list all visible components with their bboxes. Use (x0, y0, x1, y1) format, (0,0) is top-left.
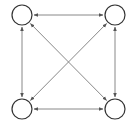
node-bottom-right (105, 99, 125, 119)
edges-group (22, 15, 115, 109)
node-top-left (12, 5, 32, 25)
graph-diagram (0, 0, 134, 124)
node-top-right (105, 5, 125, 25)
node-bottom-left (12, 99, 32, 119)
